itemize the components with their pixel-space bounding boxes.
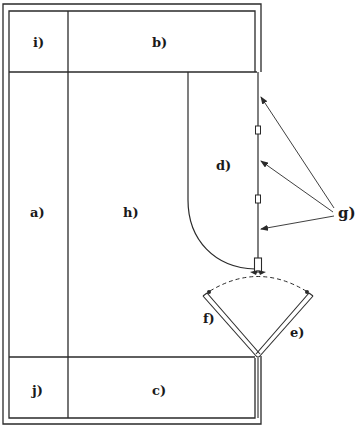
swing-end-left <box>207 290 211 294</box>
door-panel-e <box>256 293 313 357</box>
label-d: d) <box>216 158 231 173</box>
label-g: g) <box>338 204 356 222</box>
label-e: e) <box>290 325 304 340</box>
wall-marker-2 <box>256 195 261 203</box>
label-f: f) <box>203 311 215 326</box>
label-i: i) <box>33 35 44 50</box>
label-c: c) <box>152 383 166 398</box>
g-callout-arrows <box>261 97 334 229</box>
swing-end-right <box>305 290 309 294</box>
wall-marker-1 <box>256 126 261 134</box>
label-b: b) <box>152 35 167 50</box>
label-a: a) <box>30 205 45 220</box>
label-h: h) <box>123 205 139 220</box>
floor-plan-diagram: i) b) a) h) d) g) f) e) j) c) <box>0 0 358 429</box>
label-j: j) <box>31 383 43 398</box>
door-jamb <box>255 258 262 272</box>
door-swing-arc <box>210 277 306 292</box>
